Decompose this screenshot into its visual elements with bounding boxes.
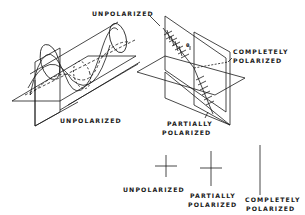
legend-label-completely-2: POLARIZED — [246, 205, 295, 213]
label-completely-polarized-2: POLARIZED — [233, 57, 282, 65]
diagram-drawing — [0, 0, 305, 215]
label-partially-polarized-2: POLARIZED — [162, 129, 211, 137]
label-top-unpolarized: UNPOLARIZED — [92, 10, 154, 18]
label-partially-polarized-1: PARTIALLY — [167, 120, 213, 128]
legend-label-unpolarized: UNPOLARIZED — [123, 186, 185, 194]
label-completely-polarized-1: COMPLETELY — [233, 48, 289, 56]
scatter-horizontal-plane — [137, 56, 245, 95]
lower-plane — [165, 72, 230, 125]
legend-unpolarized-cross — [155, 155, 177, 177]
scattered-ray-partially — [194, 68, 213, 114]
scattering-figure — [137, 16, 245, 125]
label-cylinder-unpolarized: UNPOLARIZED — [60, 117, 122, 125]
legend-label-completely-1: COMPLETELY — [245, 196, 301, 204]
polarization-diagram: UNPOLARIZED COMPLETELY POLARIZED UNPOLAR… — [0, 0, 305, 215]
theta-label: θ — [186, 41, 191, 49]
legend-label-partially-2: POLARIZED — [188, 201, 237, 209]
cylinder-wave-figure — [12, 21, 140, 126]
legend-label-partially-1: PARTIALLY — [190, 192, 236, 200]
legend-partially-cross — [200, 151, 222, 186]
